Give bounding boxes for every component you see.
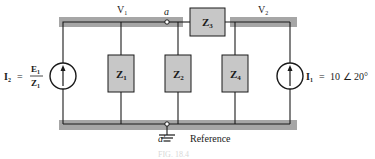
svg-text:10 ∠ 20°: 10 ∠ 20°: [330, 71, 368, 82]
impedance-z3: Z3: [190, 8, 225, 36]
node-a-prime-label: a′: [158, 133, 166, 144]
impedance-z4: Z4: [222, 55, 248, 92]
v2-label: V2: [258, 4, 268, 16]
svg-text:=: =: [17, 71, 23, 82]
svg-text:E1: E1: [31, 64, 40, 75]
v1-label: V1: [117, 4, 127, 16]
circuit-diagram: Z1 Z2 Z3 Z4 V1 V2 a a′ Reference I2 = E1…: [0, 0, 375, 159]
figure-caption: FIG. 18.4: [158, 150, 189, 159]
impedance-z2: Z2: [165, 55, 191, 92]
svg-text:=: =: [319, 71, 325, 82]
svg-text:Z1: Z1: [31, 78, 40, 89]
svg-text:I2: I2: [4, 71, 11, 83]
svg-text:I1: I1: [306, 71, 313, 83]
current-source-right-icon: [277, 63, 303, 89]
right-source-equation: I1 = 10 ∠ 20°: [306, 71, 368, 83]
current-source-left-icon: [50, 63, 76, 89]
left-source-equation: I2 = E1 Z1: [4, 64, 43, 89]
node-a-label: a: [164, 6, 169, 17]
node-a-prime: [165, 122, 169, 126]
reference-label: Reference: [190, 133, 231, 144]
impedance-z1: Z1: [108, 55, 134, 92]
node-a: [165, 20, 169, 24]
